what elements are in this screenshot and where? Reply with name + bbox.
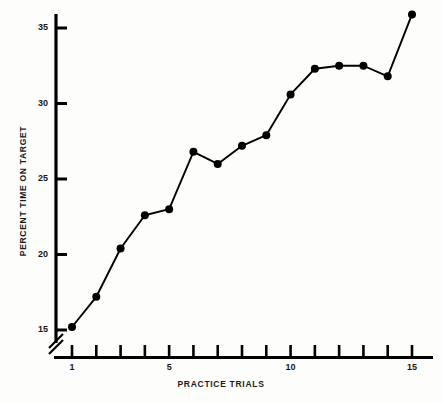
data-point xyxy=(335,62,343,70)
data-point xyxy=(359,62,367,70)
y-axis-ticks xyxy=(56,28,67,330)
data-series-line xyxy=(72,14,412,327)
x-axis-ticks xyxy=(72,345,412,357)
chart-figure: 3530252015 151015 PERCENT TIME ON TARGET… xyxy=(0,0,442,403)
data-point xyxy=(165,205,173,213)
data-point xyxy=(189,148,197,156)
data-point xyxy=(68,323,76,331)
y-tick-label: 35 xyxy=(22,22,48,32)
data-point xyxy=(408,10,416,18)
line-chart-plot xyxy=(0,0,442,403)
x-axis-title: PRACTICE TRIALS xyxy=(0,379,442,389)
data-point xyxy=(287,90,295,98)
data-point-markers xyxy=(68,10,416,331)
data-point xyxy=(92,293,100,301)
data-point xyxy=(311,65,319,73)
axis-spines xyxy=(54,14,433,358)
data-point xyxy=(214,160,222,168)
y-tick-label: 30 xyxy=(22,98,48,108)
data-point xyxy=(384,72,392,80)
x-tick-label: 15 xyxy=(400,362,424,372)
data-point xyxy=(117,244,125,252)
y-tick-label: 15 xyxy=(22,324,48,334)
x-tick-label: 1 xyxy=(60,362,84,372)
x-tick-label: 5 xyxy=(157,362,181,372)
x-tick-label: 10 xyxy=(279,362,303,372)
data-point xyxy=(141,211,149,219)
data-point xyxy=(262,131,270,139)
data-point xyxy=(238,142,246,150)
y-axis-title: PERCENT TIME ON TARGET xyxy=(18,121,28,261)
